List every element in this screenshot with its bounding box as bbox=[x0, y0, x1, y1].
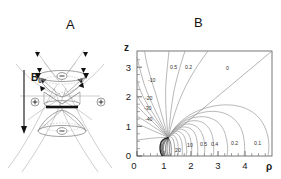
contour-neg-40 bbox=[137, 95, 168, 138]
x-axis-label: ρ bbox=[266, 161, 272, 172]
charge-left bbox=[31, 98, 39, 106]
figure-root: A B bbox=[0, 0, 281, 179]
y-tick-0: 0 bbox=[126, 150, 131, 161]
x-tick-0: 0 bbox=[131, 160, 136, 171]
panel-a-diagram: B0 bbox=[8, 50, 112, 172]
charge-bottom bbox=[57, 128, 67, 135]
y-tick-3: 3 bbox=[126, 62, 131, 73]
contour-label-neg30: -30 bbox=[144, 105, 152, 111]
b0-field-arrow-icon bbox=[21, 70, 27, 134]
x-tick-2: 2 bbox=[188, 160, 193, 171]
contour-label-0p5-low: 0.5 bbox=[200, 141, 207, 147]
y-tick-labels: 0 1 2 3 bbox=[126, 62, 131, 161]
figure-canvas: B0 bbox=[0, 0, 281, 179]
y-tick-2: 2 bbox=[126, 91, 131, 102]
contour-label-0p5-up: 0.5 bbox=[170, 64, 177, 70]
contour-neg-30 bbox=[137, 80, 168, 138]
contour-label-0p1: 0.1 bbox=[254, 140, 261, 146]
contour-label-10: 10 bbox=[187, 142, 193, 148]
panel-b-plot: 0 0.1 0.2 0.2 0.4 0.5 0.5 10 20 -10 -20 … bbox=[124, 42, 272, 172]
x-tick-3: 3 bbox=[215, 160, 220, 171]
contour-label-0p2-up: 0.2 bbox=[185, 64, 192, 70]
x-tick-labels: 0 1 2 3 4 bbox=[131, 160, 247, 171]
contour-label-20: 20 bbox=[175, 147, 181, 153]
contour-label-neg40: -40 bbox=[145, 116, 153, 122]
x-tick-4: 4 bbox=[242, 160, 247, 171]
contour-label-0p4: 0.4 bbox=[211, 141, 218, 147]
y-minor-ticks bbox=[137, 60, 140, 149]
contour-label-0p2-low: 0.2 bbox=[231, 140, 238, 146]
contour-label-0: 0 bbox=[226, 65, 229, 71]
contour-label-neg10: -10 bbox=[148, 77, 156, 83]
charge-top bbox=[57, 73, 67, 80]
x-tick-1: 1 bbox=[161, 160, 166, 171]
charge-right bbox=[97, 98, 105, 106]
contour-upper-inner bbox=[166, 51, 169, 138]
y-tick-1: 1 bbox=[126, 121, 131, 132]
y-axis-label: z bbox=[124, 42, 129, 53]
contour-0p7 bbox=[168, 127, 197, 156]
contour-0p1 bbox=[168, 105, 269, 156]
contour-label-neg20: -20 bbox=[145, 95, 153, 101]
